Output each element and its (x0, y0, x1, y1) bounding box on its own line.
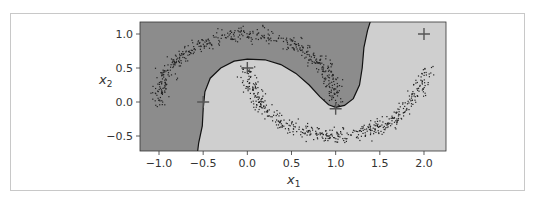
data-point (337, 86, 338, 87)
data-point (321, 55, 322, 56)
data-point (173, 64, 174, 65)
data-point (415, 102, 416, 103)
data-point (172, 61, 173, 62)
data-point (232, 39, 233, 40)
data-point (256, 77, 257, 78)
data-point (333, 74, 334, 75)
data-point (209, 48, 210, 49)
data-point (296, 46, 297, 47)
y-tick-label: −0.5 (106, 130, 133, 143)
data-point (259, 101, 260, 102)
data-point (300, 131, 301, 132)
data-point (325, 130, 326, 131)
data-point (329, 100, 330, 101)
data-point (389, 118, 390, 119)
data-point (179, 57, 180, 58)
data-point (394, 117, 395, 118)
data-point (159, 86, 160, 87)
data-point (424, 79, 425, 80)
data-point (160, 88, 161, 89)
data-point (243, 92, 244, 93)
data-point (319, 128, 320, 129)
data-point (256, 105, 257, 106)
data-point (337, 83, 338, 84)
data-point (255, 38, 256, 39)
data-point (328, 84, 329, 85)
data-point (264, 118, 265, 119)
data-point (322, 74, 323, 75)
data-point (167, 56, 168, 57)
data-point (277, 114, 278, 115)
data-point (276, 110, 277, 111)
data-point (229, 35, 230, 36)
data-point (341, 86, 342, 87)
data-point (259, 106, 260, 107)
data-point (262, 98, 263, 99)
data-point (212, 48, 213, 49)
data-point (306, 57, 307, 58)
data-point (164, 104, 165, 105)
data-point (418, 75, 419, 76)
data-point (224, 34, 225, 35)
data-point (325, 77, 326, 78)
data-point (410, 100, 411, 101)
data-point (341, 134, 342, 135)
data-point (293, 129, 294, 130)
data-point (312, 61, 313, 62)
data-point (342, 79, 343, 80)
data-point (307, 54, 308, 55)
data-point (306, 141, 307, 142)
data-point (344, 142, 345, 143)
data-point (189, 52, 190, 53)
data-point (242, 82, 243, 83)
data-point (425, 85, 426, 86)
data-point (371, 130, 372, 131)
data-point (253, 103, 254, 104)
data-point (370, 126, 371, 127)
data-point (302, 136, 303, 137)
data-point (281, 38, 282, 39)
data-point (285, 128, 286, 129)
data-point (254, 84, 255, 85)
data-point (250, 93, 251, 94)
data-point (327, 140, 328, 141)
data-point (288, 129, 289, 130)
data-point (329, 95, 330, 96)
data-point (175, 73, 176, 74)
data-point (202, 39, 203, 40)
data-point (384, 129, 385, 130)
data-point (298, 43, 299, 44)
data-point (377, 118, 378, 119)
data-point (268, 116, 269, 117)
data-point (264, 111, 265, 112)
data-point (259, 109, 260, 110)
data-point (291, 39, 292, 40)
data-point (164, 87, 165, 88)
data-point (322, 133, 323, 134)
data-point (322, 138, 323, 139)
data-point (258, 92, 259, 93)
data-point (267, 110, 268, 111)
data-point (395, 120, 396, 121)
data-point (361, 131, 362, 132)
data-point (358, 134, 359, 135)
data-point (317, 62, 318, 63)
data-point (374, 131, 375, 132)
data-point (163, 72, 164, 73)
data-point (182, 51, 183, 52)
data-point (279, 113, 280, 114)
data-point (325, 138, 326, 139)
data-point (264, 108, 265, 109)
data-point (306, 131, 307, 132)
data-point (350, 134, 351, 135)
data-point (426, 72, 427, 73)
data-point (353, 130, 354, 131)
data-point (407, 90, 408, 91)
data-point (398, 115, 399, 116)
data-point (173, 60, 174, 61)
data-point (316, 59, 317, 60)
data-point (233, 39, 234, 40)
data-point (301, 45, 302, 46)
data-point (322, 137, 323, 138)
data-point (294, 43, 295, 44)
